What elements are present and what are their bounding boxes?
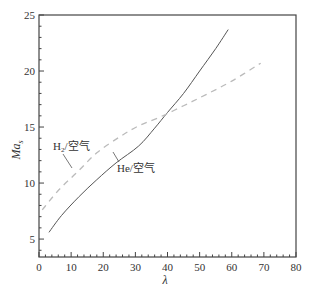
annotation-leader-line [113, 152, 119, 162]
x-tick-label: 80 [291, 261, 303, 273]
h2-air-line [42, 63, 260, 210]
y-tick-label: 15 [24, 121, 36, 133]
h2-air-annotation: H2/空气 [53, 139, 90, 154]
x-tick-label: 50 [194, 261, 206, 273]
x-tick-label: 20 [98, 261, 110, 273]
x-tick-label: 40 [162, 261, 174, 273]
x-tick-label: 60 [226, 261, 238, 273]
series-lines [42, 30, 260, 233]
y-axis-label: Mas [9, 140, 25, 160]
plot-frame [39, 15, 296, 257]
x-tick-label: 10 [66, 261, 78, 273]
x-tick-label: 70 [258, 261, 270, 273]
he-air-annotation: He/空气 [117, 161, 155, 174]
x-axis-label: λ [161, 273, 167, 287]
y-tick-label: 5 [30, 233, 36, 245]
plot-border [39, 15, 296, 257]
chart: 01020304050607080510152025 H2/空气He/空气 λ … [0, 0, 309, 291]
y-tick-label: 10 [24, 177, 36, 189]
y-tick-label: 25 [24, 9, 36, 21]
y-tick-label: 20 [24, 65, 36, 77]
x-tick-label: 30 [130, 261, 142, 273]
annotation-leader-line [63, 154, 72, 168]
x-tick-label: 0 [36, 261, 42, 273]
annotations: H2/空气He/空气 [53, 139, 155, 174]
he-air-line [49, 30, 228, 233]
